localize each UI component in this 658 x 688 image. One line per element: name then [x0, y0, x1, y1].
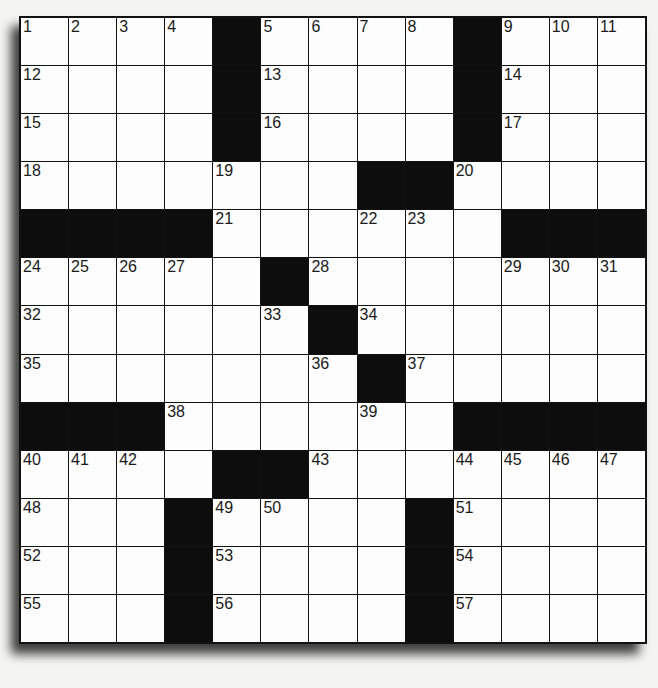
- crossword-cell[interactable]: [69, 355, 116, 402]
- crossword-cell[interactable]: [165, 355, 212, 402]
- crossword-cell[interactable]: 4: [165, 18, 212, 65]
- crossword-cell[interactable]: [69, 499, 116, 546]
- crossword-cell[interactable]: 6: [309, 18, 356, 65]
- crossword-cell[interactable]: [406, 258, 453, 305]
- crossword-cell[interactable]: [165, 162, 212, 209]
- crossword-cell[interactable]: [261, 162, 308, 209]
- crossword-cell[interactable]: [598, 66, 645, 113]
- crossword-cell[interactable]: 17: [502, 114, 549, 161]
- crossword-cell[interactable]: [406, 66, 453, 113]
- crossword-cell[interactable]: [550, 66, 597, 113]
- crossword-cell[interactable]: [261, 595, 308, 642]
- crossword-cell[interactable]: [69, 595, 116, 642]
- crossword-cell[interactable]: [454, 210, 501, 257]
- crossword-cell[interactable]: 9: [502, 18, 549, 65]
- crossword-cell[interactable]: 5: [261, 18, 308, 65]
- crossword-cell[interactable]: 29: [502, 258, 549, 305]
- crossword-cell[interactable]: 47: [598, 451, 645, 498]
- crossword-cell[interactable]: [550, 547, 597, 594]
- crossword-cell[interactable]: [550, 499, 597, 546]
- crossword-cell[interactable]: [69, 66, 116, 113]
- crossword-cell[interactable]: [502, 499, 549, 546]
- crossword-cell[interactable]: 1: [21, 18, 68, 65]
- crossword-cell[interactable]: [261, 210, 308, 257]
- crossword-cell[interactable]: [213, 258, 260, 305]
- crossword-cell[interactable]: 52: [21, 547, 68, 594]
- crossword-cell[interactable]: [502, 162, 549, 209]
- crossword-cell[interactable]: [550, 355, 597, 402]
- crossword-cell[interactable]: 18: [21, 162, 68, 209]
- crossword-cell[interactable]: [598, 499, 645, 546]
- crossword-cell[interactable]: [406, 403, 453, 450]
- crossword-cell[interactable]: 27: [165, 258, 212, 305]
- crossword-cell[interactable]: 39: [358, 403, 405, 450]
- crossword-cell[interactable]: 24: [21, 258, 68, 305]
- crossword-cell[interactable]: 20: [454, 162, 501, 209]
- crossword-cell[interactable]: [454, 355, 501, 402]
- crossword-cell[interactable]: [261, 547, 308, 594]
- crossword-cell[interactable]: 8: [406, 18, 453, 65]
- crossword-cell[interactable]: [358, 258, 405, 305]
- crossword-cell[interactable]: [550, 306, 597, 353]
- crossword-cell[interactable]: [165, 306, 212, 353]
- crossword-cell[interactable]: [117, 66, 164, 113]
- crossword-cell[interactable]: [309, 595, 356, 642]
- crossword-cell[interactable]: 46: [550, 451, 597, 498]
- crossword-cell[interactable]: 45: [502, 451, 549, 498]
- crossword-cell[interactable]: 38: [165, 403, 212, 450]
- crossword-cell[interactable]: 43: [309, 451, 356, 498]
- crossword-cell[interactable]: [213, 355, 260, 402]
- crossword-cell[interactable]: [69, 114, 116, 161]
- crossword-cell[interactable]: [117, 499, 164, 546]
- crossword-cell[interactable]: 55: [21, 595, 68, 642]
- crossword-cell[interactable]: 41: [69, 451, 116, 498]
- crossword-cell[interactable]: [261, 403, 308, 450]
- crossword-cell[interactable]: 23: [406, 210, 453, 257]
- crossword-cell[interactable]: 54: [454, 547, 501, 594]
- crossword-cell[interactable]: [358, 451, 405, 498]
- crossword-cell[interactable]: 19: [213, 162, 260, 209]
- crossword-cell[interactable]: [502, 306, 549, 353]
- crossword-cell[interactable]: 30: [550, 258, 597, 305]
- crossword-cell[interactable]: [358, 595, 405, 642]
- crossword-cell[interactable]: [117, 162, 164, 209]
- crossword-cell[interactable]: [117, 306, 164, 353]
- crossword-cell[interactable]: 21: [213, 210, 260, 257]
- crossword-cell[interactable]: 51: [454, 499, 501, 546]
- crossword-cell[interactable]: [117, 114, 164, 161]
- crossword-cell[interactable]: [406, 451, 453, 498]
- crossword-cell[interactable]: [117, 595, 164, 642]
- crossword-cell[interactable]: [358, 114, 405, 161]
- crossword-cell[interactable]: 40: [21, 451, 68, 498]
- crossword-cell[interactable]: [598, 595, 645, 642]
- crossword-cell[interactable]: [309, 547, 356, 594]
- crossword-cell[interactable]: 33: [261, 306, 308, 353]
- crossword-cell[interactable]: [69, 547, 116, 594]
- crossword-cell[interactable]: [165, 451, 212, 498]
- crossword-cell[interactable]: 49: [213, 499, 260, 546]
- crossword-cell[interactable]: [309, 499, 356, 546]
- crossword-cell[interactable]: 12: [21, 66, 68, 113]
- crossword-cell[interactable]: 34: [358, 306, 405, 353]
- crossword-cell[interactable]: 28: [309, 258, 356, 305]
- crossword-cell[interactable]: [454, 258, 501, 305]
- crossword-cell[interactable]: 32: [21, 306, 68, 353]
- crossword-cell[interactable]: 3: [117, 18, 164, 65]
- crossword-cell[interactable]: 11: [598, 18, 645, 65]
- crossword-cell[interactable]: [261, 355, 308, 402]
- crossword-cell[interactable]: [598, 306, 645, 353]
- crossword-cell[interactable]: [502, 547, 549, 594]
- crossword-cell[interactable]: 13: [261, 66, 308, 113]
- crossword-cell[interactable]: [550, 114, 597, 161]
- crossword-cell[interactable]: [598, 162, 645, 209]
- crossword-cell[interactable]: 22: [358, 210, 405, 257]
- crossword-cell[interactable]: 25: [69, 258, 116, 305]
- crossword-cell[interactable]: 16: [261, 114, 308, 161]
- crossword-cell[interactable]: [358, 66, 405, 113]
- crossword-cell[interactable]: [598, 547, 645, 594]
- crossword-cell[interactable]: [502, 595, 549, 642]
- crossword-cell[interactable]: 44: [454, 451, 501, 498]
- crossword-cell[interactable]: 10: [550, 18, 597, 65]
- crossword-cell[interactable]: 42: [117, 451, 164, 498]
- crossword-cell[interactable]: [213, 306, 260, 353]
